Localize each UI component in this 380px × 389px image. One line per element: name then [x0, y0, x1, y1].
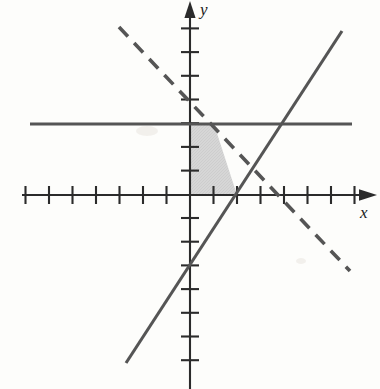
graph-figure: y x [0, 0, 380, 389]
line-rising-solid [126, 31, 342, 363]
y-axis-label: y [200, 0, 208, 20]
shaded-region [190, 124, 237, 195]
y-axis-arrowhead [184, 1, 195, 18]
x-axis-label: x [360, 203, 368, 223]
x-axis-arrowhead [359, 189, 377, 201]
line-dashed-negative-slope [119, 27, 350, 271]
coordinate-plane [0, 0, 380, 389]
